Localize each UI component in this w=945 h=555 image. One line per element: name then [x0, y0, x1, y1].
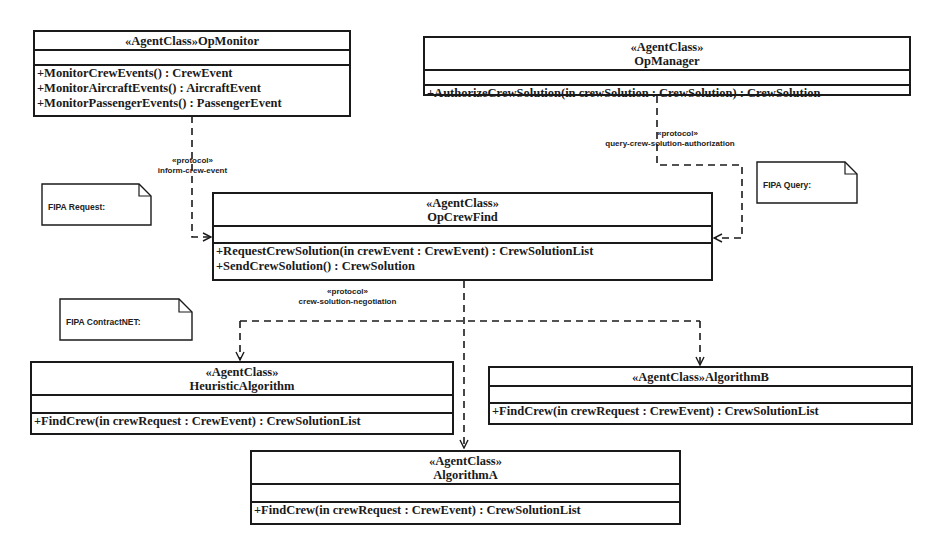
class-title: HeuristicAlgorithm: [34, 379, 450, 393]
operation: +RequestCrewSolution(in crewEvent : Crew…: [216, 244, 709, 259]
attributes-compartment: [214, 227, 711, 244]
note-fipa-request[interactable]: FIPA Request:: [41, 183, 153, 227]
operation: +FindCrew(in crewRequest : CrewEvent) : …: [492, 404, 909, 419]
uml-diagram: «AgentClass»OpMonitor +MonitorCrewEvents…: [0, 0, 945, 555]
operation: +SendCrewSolution() : CrewSolution: [216, 259, 709, 274]
protocol-name: query-crew-solution-authorization: [595, 139, 745, 149]
class-algorithmb[interactable]: «AgentClass»AlgorithmB +FindCrew(in crew…: [488, 366, 913, 425]
operation: +MonitorAircraftEvents() : AircraftEvent: [37, 81, 347, 96]
class-name: «AgentClass» OpManager: [425, 38, 909, 71]
stereotype: «AgentClass»: [216, 196, 709, 210]
protocol-label-negotiation: «protocol» crew-solution-negotiation: [280, 287, 415, 307]
attributes-compartment: [425, 71, 909, 86]
operations-compartment: +FindCrew(in crewRequest : CrewEvent) : …: [32, 414, 452, 429]
note-text: FIPA Request:: [48, 202, 105, 212]
protocol-label-query: «protocol» query-crew-solution-authoriza…: [595, 129, 745, 149]
class-name: «AgentClass»OpMonitor: [35, 32, 349, 51]
protocol-label-inform: «protocol» inform-crew-event: [140, 156, 245, 176]
class-heuristicalgorithm[interactable]: «AgentClass» HeuristicAlgorithm +FindCre…: [30, 361, 454, 435]
class-name: «AgentClass» HeuristicAlgorithm: [32, 363, 452, 396]
class-opcrewfind[interactable]: «AgentClass» OpCrewFind +RequestCrewSolu…: [212, 192, 713, 281]
operation: +MonitorPassengerEvents() : PassengerEve…: [37, 96, 347, 111]
class-algorithma[interactable]: «AgentClass» AlgorithmA +FindCrew(in cre…: [250, 450, 681, 525]
attributes-compartment: [32, 396, 452, 414]
note-fipa-query[interactable]: FIPA Query:: [756, 161, 860, 205]
class-name: «AgentClass» OpCrewFind: [214, 194, 711, 227]
attributes-compartment: [35, 51, 349, 66]
note-text: FIPA Query:: [763, 180, 811, 190]
class-name: «AgentClass» AlgorithmA: [252, 452, 679, 485]
class-title: OpManager: [427, 54, 907, 68]
attributes-compartment: [490, 387, 911, 404]
class-name: «AgentClass»AlgorithmB: [490, 368, 911, 387]
operation: +AuthorizeCrewSolution(in crewSolution :…: [427, 86, 907, 101]
protocol-name: crew-solution-negotiation: [280, 297, 415, 307]
operation: +FindCrew(in crewRequest : CrewEvent) : …: [254, 503, 677, 518]
class-title: OpCrewFind: [216, 210, 709, 224]
connector-inform-crew-event: [192, 116, 211, 237]
protocol-stereotype: «protocol»: [595, 129, 745, 139]
operations-compartment: +MonitorCrewEvents() : CrewEvent +Monito…: [35, 66, 349, 111]
note-fipa-contractnet[interactable]: FIPA ContractNET:: [59, 298, 195, 342]
attributes-compartment: [252, 485, 679, 503]
protocol-stereotype: «protocol»: [280, 287, 415, 297]
class-opmonitor[interactable]: «AgentClass»OpMonitor +MonitorCrewEvents…: [33, 30, 351, 117]
operations-compartment: +FindCrew(in crewRequest : CrewEvent) : …: [490, 404, 911, 419]
note-text: FIPA ContractNET:: [66, 317, 141, 327]
class-title: AlgorithmA: [254, 468, 677, 482]
operation: +FindCrew(in crewRequest : CrewEvent) : …: [34, 414, 450, 429]
operations-compartment: +RequestCrewSolution(in crewEvent : Crew…: [214, 244, 711, 274]
stereotype: «AgentClass»: [254, 454, 677, 468]
stereotype: «AgentClass»: [34, 365, 450, 379]
operation: +MonitorCrewEvents() : CrewEvent: [37, 66, 347, 81]
operations-compartment: +FindCrew(in crewRequest : CrewEvent) : …: [252, 503, 679, 518]
operations-compartment: +AuthorizeCrewSolution(in crewSolution :…: [425, 86, 909, 101]
protocol-name: inform-crew-event: [140, 166, 245, 176]
stereotype: «AgentClass»: [427, 40, 907, 54]
protocol-stereotype: «protocol»: [140, 156, 245, 166]
class-opmanager[interactable]: «AgentClass» OpManager +AuthorizeCrewSol…: [423, 36, 911, 96]
